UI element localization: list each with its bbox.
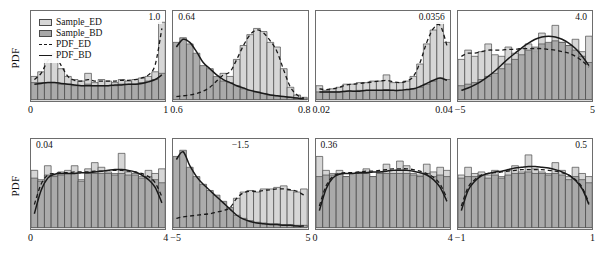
bar-sample-ed <box>274 47 281 100</box>
x-axis-ticks: 01θ₁: x₂ <box>30 104 166 122</box>
bar-sample-bd <box>436 78 443 100</box>
legend-swatch-icon <box>39 30 52 37</box>
x-tick-max: 5 <box>306 232 311 243</box>
sample-bd-bars <box>316 173 450 227</box>
bar-sample-bd <box>478 175 485 228</box>
bar-sample-bd <box>51 177 58 228</box>
legend-item-pdf_ed: PDF_ED <box>39 39 102 50</box>
x-tick-min: −1 <box>455 232 466 243</box>
bar-sample-bd <box>234 86 241 100</box>
panel-annotation: 0.04 <box>34 140 55 152</box>
x-tick-max: 0.8 <box>298 104 311 115</box>
bar-sample-bd <box>342 91 349 100</box>
bar-sample-bd <box>58 175 65 228</box>
bar-sample-bd <box>207 190 214 227</box>
panel-annotation: 0.5 <box>573 140 589 152</box>
bar-sample-bd <box>538 44 545 100</box>
x-tick-min: 0 <box>313 232 318 243</box>
bar-sample-bd <box>145 81 152 100</box>
bar-sample-bd <box>491 175 498 228</box>
panel-row-top: PDF 1.0Sample_EDSample_BDPDF_EDPDF_BD01θ… <box>0 8 599 126</box>
x-tick-min: −5 <box>455 104 466 115</box>
bar-sample-bd <box>71 173 78 227</box>
bar-sample-bd <box>349 173 356 227</box>
bar-sample-bd <box>376 90 383 99</box>
bar-sample-ed <box>294 192 301 228</box>
bar-sample-bd <box>112 86 119 100</box>
legend-label: PDF_BD <box>56 50 91 61</box>
bar-sample-bd <box>118 173 125 227</box>
bar-sample-bd <box>91 86 98 100</box>
x-axis-ticks: −11θ₈: ρ <box>457 232 593 250</box>
bar-sample-bd <box>132 84 139 99</box>
panel-8: 0.5−11θ₈: ρ <box>457 136 593 254</box>
bar-sample-bd <box>227 83 234 100</box>
legend: Sample_EDSample_BDPDF_EDPDF_BD <box>37 15 105 63</box>
bar-sample-bd <box>585 183 592 228</box>
bar-sample-bd <box>511 59 518 99</box>
plot-area-3: 0.0356 <box>315 10 451 102</box>
histogram-svg <box>458 11 592 101</box>
bar-sample-bd <box>200 184 207 227</box>
bar-sample-bd <box>511 173 518 227</box>
panel-annotation: 0.0356 <box>417 12 447 24</box>
bar-sample-bd <box>145 177 152 228</box>
bar-sample-ed <box>254 28 261 99</box>
bar-sample-bd <box>138 178 145 228</box>
bar-sample-bd <box>58 84 65 99</box>
bar-sample-bd <box>349 91 356 100</box>
panel-annotation: 0.36 <box>319 140 340 152</box>
bar-sample-bd <box>125 175 132 228</box>
legend-solid-line-icon <box>39 52 52 59</box>
bar-sample-bd <box>173 42 180 99</box>
bar-sample-bd <box>98 86 105 100</box>
bar-sample-bd <box>396 173 403 227</box>
bar-sample-ed <box>274 187 281 227</box>
bar-sample-bd <box>443 177 450 228</box>
bar-sample-bd <box>430 81 437 100</box>
bar-sample-bd <box>416 177 423 228</box>
histogram-svg <box>173 139 307 229</box>
sample-bd-bars <box>31 173 165 227</box>
x-tick-max: 4 <box>163 232 168 243</box>
legend-dashed-line-icon <box>39 41 52 48</box>
bar-sample-bd <box>558 175 565 228</box>
bar-sample-bd <box>71 86 78 100</box>
bar-sample-bd <box>118 84 125 99</box>
bar-sample-bd <box>105 173 112 227</box>
bar-sample-bd <box>389 90 396 99</box>
bar-sample-bd <box>416 87 423 99</box>
x-tick-min: 0 <box>28 104 33 115</box>
bar-sample-bd <box>485 178 492 228</box>
bar-sample-bd <box>336 92 343 100</box>
bar-sample-bd <box>38 83 45 100</box>
x-axis-ticks: 0.60.8θ₂: μ₁ <box>172 104 308 122</box>
legend-label: Sample_BD <box>56 28 102 39</box>
bar-sample-bd <box>132 175 139 228</box>
bar-sample-bd <box>329 175 336 228</box>
bar-sample-bd <box>247 90 254 99</box>
histogram-svg <box>458 139 592 229</box>
legend-swatch-icon <box>39 19 52 26</box>
bar-sample-bd <box>31 83 38 100</box>
x-tick-min: 0.6 <box>170 104 183 115</box>
plot-area-7: 0.36 <box>315 138 451 230</box>
bar-sample-ed <box>301 189 308 228</box>
histogram-svg <box>31 139 165 229</box>
plot-area-5: 0.04 <box>30 138 166 230</box>
bar-sample-bd <box>443 80 450 100</box>
bar-sample-bd <box>545 175 552 228</box>
bar-sample-bd <box>316 92 323 100</box>
bar-sample-bd <box>376 173 383 227</box>
y-axis-label-bottom: PDF <box>0 136 30 254</box>
bar-sample-bd <box>532 47 539 100</box>
legend-item-sample_bd: Sample_BD <box>39 28 102 39</box>
histogram-svg <box>316 139 450 229</box>
x-axis-ticks: 04θ₅: σ₄² <box>30 232 166 250</box>
bar-sample-bd <box>383 173 390 227</box>
panel-annotation: 1.0 <box>146 12 162 24</box>
bar-sample-bd <box>362 173 369 227</box>
bar-sample-bd <box>38 181 45 227</box>
panel-row-bottom: PDF 0.0404θ₅: σ₄² −1.5−55θ₆: μ₅ 0.3604θ₇… <box>0 136 599 254</box>
y-axis-label-text: PDF <box>9 175 21 196</box>
